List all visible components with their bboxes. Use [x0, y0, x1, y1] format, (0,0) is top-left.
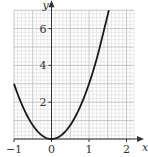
- y-tick-label: 6: [40, 23, 47, 36]
- y-axis-arrow-icon: [49, 0, 55, 7]
- x-axis-label: x: [142, 141, 148, 154]
- chart: −1012246xy: [0, 0, 148, 157]
- y-tick-label: 4: [40, 59, 47, 72]
- curve-y-equals-3x-squared: [14, 10, 109, 139]
- x-tick-label: 0: [48, 143, 55, 156]
- y-axis-label: y: [42, 0, 50, 12]
- x-tick-label: 1: [86, 143, 93, 156]
- y-tick-label: 2: [40, 96, 47, 109]
- x-tick-label: 2: [123, 143, 130, 156]
- x-tick-label: −1: [6, 143, 22, 156]
